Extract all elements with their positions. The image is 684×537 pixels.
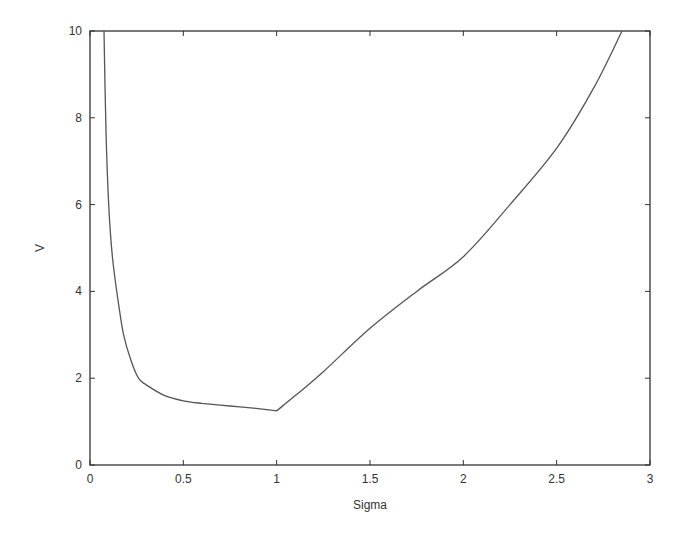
y-tick-label: 4 [75, 284, 82, 298]
y-tick-label: 8 [75, 111, 82, 125]
y-axis: 0246810 [69, 24, 650, 472]
x-axis-title: Sigma [353, 498, 387, 512]
x-tick-label: 1 [273, 472, 280, 486]
x-tick-label: 0.5 [175, 472, 192, 486]
x-axis: 00.511.522.53 [87, 31, 654, 486]
y-tick-label: 2 [75, 371, 82, 385]
y-tick-label: 0 [75, 458, 82, 472]
y-tick-label: 6 [75, 198, 82, 212]
x-tick-label: 3 [647, 472, 654, 486]
line-chart: 00.511.522.53 0246810 Sigma V [0, 0, 684, 537]
plot-border [90, 31, 650, 465]
y-tick-label: 10 [69, 24, 83, 38]
x-tick-label: 2.5 [548, 472, 565, 486]
x-tick-label: 0 [87, 472, 94, 486]
y-axis-title: V [33, 244, 47, 252]
plot-frame [90, 31, 650, 465]
x-tick-label: 2 [460, 472, 467, 486]
x-tick-label: 1.5 [362, 472, 379, 486]
data-line [104, 31, 622, 411]
